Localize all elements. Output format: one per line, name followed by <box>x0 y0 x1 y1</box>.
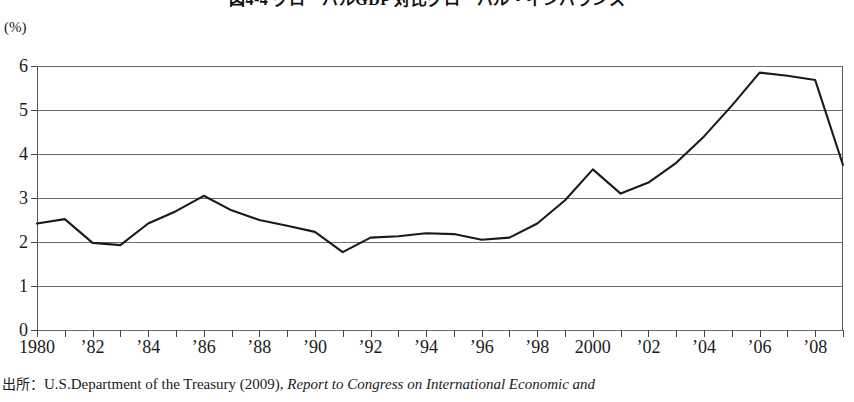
x-tick-mark-2003 <box>676 330 677 337</box>
x-tick-label-1984: ’84 <box>136 338 160 356</box>
x-tick-mark-1985 <box>176 330 177 337</box>
x-axis-line <box>37 330 843 331</box>
source-text: U.S.Department of the Treasury (2009), <box>44 376 284 392</box>
x-tick-mark-1993 <box>398 330 399 337</box>
x-tick-mark-2004 <box>704 330 705 337</box>
x-tick-label-2000: 2000 <box>575 338 611 356</box>
x-axis: 1980’82’84’86’88’90’92’94’96’982000’02’0… <box>37 330 843 370</box>
x-tick-mark-1988 <box>259 330 260 337</box>
y-tick-label-4: 4 <box>19 145 28 163</box>
y-tick-label-1: 1 <box>19 277 28 295</box>
x-tick-mark-1996 <box>482 330 483 337</box>
x-tick-label-1986: ’86 <box>192 338 216 356</box>
line-series-svg <box>37 66 843 330</box>
x-tick-mark-1984 <box>148 330 149 337</box>
x-tick-mark-2007 <box>787 330 788 337</box>
x-tick-label-1990: ’90 <box>303 338 327 356</box>
x-tick-mark-1991 <box>343 330 344 337</box>
x-tick-label-2008: ’08 <box>803 338 827 356</box>
y-axis-unit-label: (%) <box>4 20 27 35</box>
line-series-path <box>37 73 843 253</box>
x-tick-label-1982: ’82 <box>81 338 105 356</box>
x-tick-mark-2005 <box>732 330 733 337</box>
x-tick-mark-1995 <box>454 330 455 337</box>
x-tick-label-1992: ’92 <box>359 338 383 356</box>
x-tick-mark-1981 <box>65 330 66 337</box>
x-tick-mark-2009 <box>843 330 844 337</box>
x-tick-mark-1999 <box>565 330 566 337</box>
x-tick-mark-2006 <box>760 330 761 337</box>
x-tick-mark-1980 <box>37 330 38 337</box>
x-tick-mark-1990 <box>315 330 316 337</box>
x-tick-mark-1994 <box>426 330 427 337</box>
y-tick-label-3: 3 <box>19 189 28 207</box>
y-tick-label-2: 2 <box>19 233 28 251</box>
x-tick-label-2004: ’04 <box>692 338 716 356</box>
x-tick-label-1988: ’88 <box>247 338 271 356</box>
x-tick-label-2006: ’06 <box>748 338 772 356</box>
x-tick-mark-2000 <box>593 330 594 337</box>
x-tick-mark-1983 <box>120 330 121 337</box>
x-tick-label-2002: ’02 <box>636 338 660 356</box>
x-tick-mark-1987 <box>232 330 233 337</box>
x-tick-mark-2002 <box>648 330 649 337</box>
x-tick-mark-1989 <box>287 330 288 337</box>
x-tick-label-1998: ’98 <box>525 338 549 356</box>
y-tick-label-6: 6 <box>19 57 28 75</box>
x-tick-mark-1982 <box>93 330 94 337</box>
source-note: 出所：U.S.Department of the Treasury (2009)… <box>2 375 852 394</box>
x-tick-mark-1997 <box>509 330 510 337</box>
plot-area: 0123456 <box>37 66 843 330</box>
source-reference-title: Report to Congress on International Econ… <box>287 376 595 392</box>
x-tick-mark-2008 <box>815 330 816 337</box>
figure-title: 図4-4 グローバルGDP 対比グローバル・インバランス <box>0 0 854 10</box>
x-tick-mark-1986 <box>204 330 205 337</box>
x-tick-label-1980: 1980 <box>19 338 55 356</box>
x-tick-label-1996: ’96 <box>470 338 494 356</box>
y-tick-label-5: 5 <box>19 101 28 119</box>
x-tick-mark-2001 <box>621 330 622 337</box>
x-tick-mark-1998 <box>537 330 538 337</box>
x-tick-label-1994: ’94 <box>414 338 438 356</box>
x-tick-mark-1992 <box>371 330 372 337</box>
source-label: 出所： <box>2 376 44 392</box>
